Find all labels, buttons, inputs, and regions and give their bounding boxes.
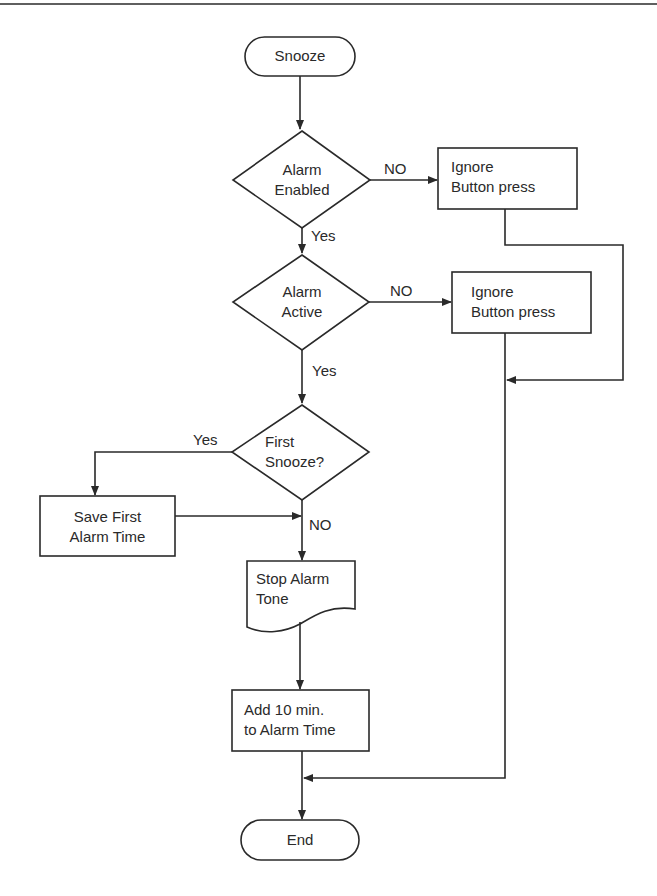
alarm-active-line1: Alarm [250,282,354,302]
edge-label-enabled-yes: Yes [311,226,335,246]
ignore-1-line2: Button press [451,177,535,197]
end-label: End [241,830,359,850]
edge-label-first-no: NO [309,515,332,535]
alarm-enabled-line1: Alarm [250,160,354,180]
add-ten-line2: to Alarm Time [244,720,336,740]
add-ten-label: Add 10 min. to Alarm Time [244,700,336,740]
ignore-2-line1: Ignore [471,282,555,302]
edge-label-active-yes: Yes [312,361,336,381]
ignore-1-label: Ignore Button press [451,157,535,197]
start-label: Snooze [245,46,355,66]
edge-label-first-yes: Yes [193,430,217,450]
ignore-2-line2: Button press [471,302,555,322]
first-snooze-label: First Snooze? [265,432,324,472]
alarm-enabled-label: Alarm Enabled [250,160,354,200]
alarm-enabled-line2: Enabled [250,180,354,200]
edge-label-active-no: NO [390,281,413,301]
first-snooze-line2: Snooze? [265,452,324,472]
stop-tone-label: Stop Alarm Tone [256,569,329,609]
ignore-1-line1: Ignore [451,157,535,177]
save-first-label: Save First Alarm Time [40,507,175,547]
edge-label-enabled-no: NO [384,159,407,179]
ignore-2-label: Ignore Button press [471,282,555,322]
save-first-line2: Alarm Time [40,527,175,547]
flowchart-canvas [0,0,657,896]
add-ten-line1: Add 10 min. [244,700,336,720]
alarm-active-label: Alarm Active [250,282,354,322]
alarm-active-line2: Active [250,302,354,322]
save-first-line1: Save First [40,507,175,527]
first-snooze-line1: First [265,432,324,452]
stop-tone-line2: Tone [256,589,329,609]
stop-tone-line1: Stop Alarm [256,569,329,589]
edge-first-yes [95,452,232,495]
